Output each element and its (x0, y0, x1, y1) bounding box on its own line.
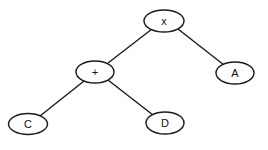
node-a: A (216, 62, 254, 84)
node-c: C (9, 114, 48, 135)
node-d-label: D (161, 117, 169, 129)
node-root: x (144, 10, 184, 32)
edge-root-plus (108, 29, 152, 63)
node-c-label: C (24, 118, 32, 130)
node-plus-label: + (92, 66, 98, 78)
node-d: D (146, 112, 184, 134)
node-a-label: A (231, 67, 239, 79)
expression-tree-diagram: x + A C D (0, 0, 268, 150)
edge-plus-d (108, 80, 153, 115)
edge-root-a (178, 29, 224, 65)
node-root-label: x (161, 15, 167, 27)
edges (40, 29, 224, 116)
node-plus: + (76, 61, 114, 83)
edge-plus-c (40, 81, 84, 116)
